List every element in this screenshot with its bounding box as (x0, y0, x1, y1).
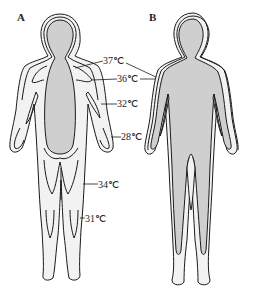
panel-label-b: B (149, 12, 156, 23)
figure-b (145, 13, 238, 285)
isotherm-label-36: 36℃ (117, 74, 138, 84)
diagram-canvas (0, 0, 259, 288)
isotherm-label-34: 34℃ (98, 180, 119, 190)
isotherm-label-28: 28℃ (121, 132, 142, 142)
figure-a (10, 14, 113, 280)
figure-a-core (45, 20, 76, 154)
panel-label-a: A (17, 12, 25, 23)
isotherm-label-37: 37℃ (103, 56, 124, 66)
isotherm-label-32: 32℃ (117, 99, 138, 109)
figure-b-core (151, 19, 231, 255)
isotherm-label-31: 31℃ (85, 214, 106, 224)
